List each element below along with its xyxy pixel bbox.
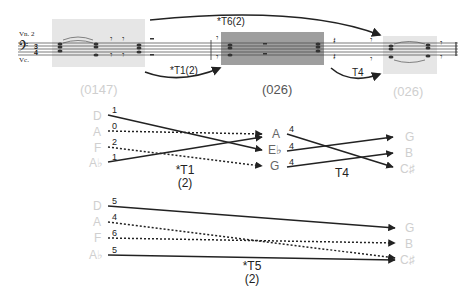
bottom-source-a: A <box>93 216 101 228</box>
dist-f-b-bottom: 6 <box>112 229 117 238</box>
edge-aflat-a <box>108 137 262 162</box>
dist-d-eflat: 1 <box>112 106 117 115</box>
bottom-source-f: F <box>94 232 101 244</box>
edge-d-g-bottom <box>108 206 395 228</box>
edge-g-b <box>287 153 393 167</box>
op-t5-label: *T5 (2) <box>237 260 267 286</box>
top-source-aflat: A♭ <box>89 157 103 169</box>
bottom-target-g: G <box>405 222 414 234</box>
bottom-source-d: D <box>93 200 102 212</box>
top-source-a: A <box>93 126 101 138</box>
top-target-g: G <box>405 131 414 143</box>
middle-eflat: E♭ <box>268 144 282 156</box>
op-t4-label: T4 <box>330 167 354 180</box>
top-source-f: F <box>94 142 101 154</box>
dist-f-g: 2 <box>112 138 117 147</box>
op-t1-label: *T1 (2) <box>170 164 200 190</box>
edge-a-a <box>108 131 262 134</box>
top-source-d: D <box>93 110 102 122</box>
bottom-target-b: B <box>405 238 413 250</box>
dist-aflat-a: 1 <box>112 153 117 162</box>
bottom-source-aflat: A♭ <box>89 249 103 261</box>
dist-a-a: 0 <box>112 122 117 131</box>
dist-a-csharp: 4 <box>289 125 294 134</box>
top-target-b: B <box>405 147 413 159</box>
bottom-target-csharp: C♯ <box>400 254 415 266</box>
middle-a: A <box>272 128 280 140</box>
edge-a-csharp-bottom <box>108 222 395 258</box>
dist-d-g-bottom: 5 <box>112 197 117 206</box>
middle-g: G <box>270 160 279 172</box>
dist-a-csharp-bottom: 4 <box>112 213 117 222</box>
top-target-csharp: C♯ <box>400 163 415 175</box>
dist-g-b: 4 <box>289 158 294 167</box>
dist-aflat-csharp-bottom: 5 <box>112 246 117 255</box>
dist-eflat-g: 4 <box>289 142 294 151</box>
